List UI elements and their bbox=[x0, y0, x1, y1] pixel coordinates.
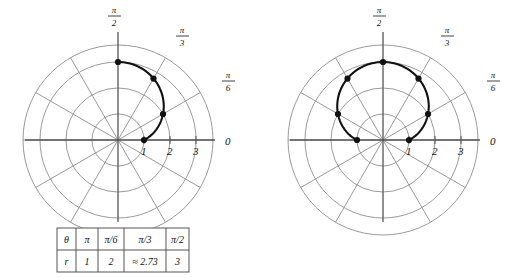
curve-point bbox=[425, 111, 431, 117]
pi-over-2-denominator: 2 bbox=[377, 18, 382, 28]
pi-over-6-numerator: π bbox=[491, 70, 496, 80]
right-axis-label-pi-over-6: π 6 bbox=[487, 70, 500, 93]
left-panel: 1 2 3 0 π 2 π 3 π 6 bbox=[23, 5, 235, 235]
pi-over-3-numerator: π bbox=[180, 25, 185, 35]
left-axis-label-pi-over-6: π 6 bbox=[222, 70, 235, 93]
theta-r-value-table: θ π π/6 π/3 π/2 r 1 2 ≈ 2.73 3 bbox=[57, 228, 189, 272]
right-axis-label-zero: 0 bbox=[490, 135, 496, 147]
left-axis-label-pi-over-3: π 3 bbox=[176, 25, 189, 48]
left-axis-label-pi-over-2: π 2 bbox=[108, 5, 121, 28]
curve-point bbox=[335, 111, 341, 117]
table-value-cell-4: 3 bbox=[174, 256, 180, 267]
table-value-cell-3: ≈ 2.73 bbox=[132, 256, 158, 267]
right-tick-label-1: 1 bbox=[406, 145, 412, 157]
table-value-cell-2: 2 bbox=[109, 256, 114, 267]
polar-curve-figure: 1 2 3 0 π 2 π 3 π 6 bbox=[0, 0, 508, 278]
table-header-cell-3: π/3 bbox=[139, 234, 152, 245]
pi-over-2-numerator: π bbox=[377, 5, 382, 15]
curve-point bbox=[406, 137, 412, 143]
curve-point bbox=[415, 75, 421, 81]
pi-over-3-denominator: 3 bbox=[179, 38, 185, 48]
curve-point bbox=[380, 59, 386, 65]
table-header-cell-4: π/2 bbox=[171, 234, 184, 245]
pi-over-6-numerator: π bbox=[226, 70, 231, 80]
pi-over-2-denominator: 2 bbox=[112, 18, 117, 28]
curve-point bbox=[344, 75, 350, 81]
table-header-cell-0: θ bbox=[64, 234, 69, 245]
right-panel: 1 2 3 0 π 2 π 3 π 6 bbox=[288, 5, 500, 235]
table-value-cell-0: r bbox=[65, 256, 69, 267]
left-tick-label-2: 2 bbox=[167, 145, 173, 157]
right-axis-label-pi-over-2: π 2 bbox=[373, 5, 386, 28]
pi-over-6-denominator: 6 bbox=[491, 83, 496, 93]
left-tick-label-1: 1 bbox=[141, 145, 147, 157]
left-axis-label-zero: 0 bbox=[225, 135, 231, 147]
curve-point bbox=[150, 75, 156, 81]
right-tick-label-3: 3 bbox=[457, 145, 464, 157]
right-tick-label-2: 2 bbox=[432, 145, 438, 157]
left-tick-label-3: 3 bbox=[192, 145, 199, 157]
table-header-cell-2: π/6 bbox=[105, 234, 118, 245]
pi-over-3-denominator: 3 bbox=[444, 38, 450, 48]
curve-point bbox=[141, 137, 147, 143]
pi-over-6-denominator: 6 bbox=[226, 83, 231, 93]
curve-point bbox=[115, 59, 121, 65]
table-value-cell-1: 1 bbox=[85, 256, 90, 267]
pi-over-2-numerator: π bbox=[112, 5, 117, 15]
curve-point bbox=[354, 137, 360, 143]
right-axis-label-pi-over-3: π 3 bbox=[441, 25, 454, 48]
pi-over-3-numerator: π bbox=[445, 25, 450, 35]
curve-point bbox=[160, 111, 166, 117]
